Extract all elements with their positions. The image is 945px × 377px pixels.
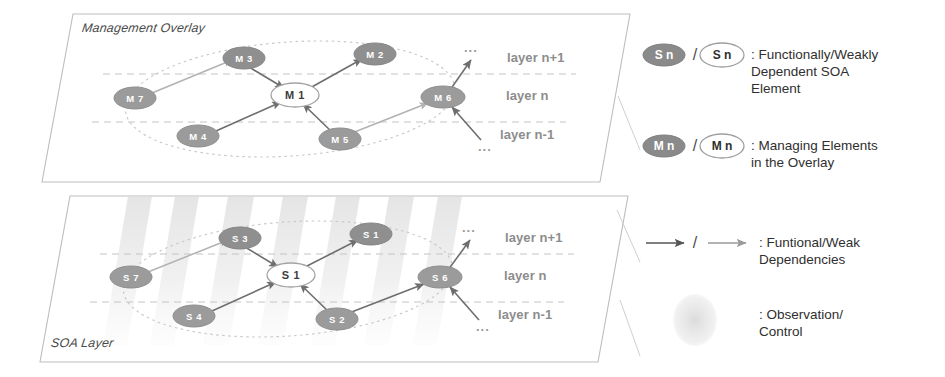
legend-separator-3: / [693,234,697,252]
layer-label-bottom-n: layer n [504,268,547,283]
legend-description-dependencies: : Funtional/Weak Dependencies [759,234,860,268]
layer-label-top-n-minus-1: layer n-1 [500,127,554,142]
node-m7[interactable] [114,87,156,109]
node-m5[interactable] [319,128,361,150]
node-m2[interactable] [354,43,396,65]
node-m6[interactable] [421,86,465,108]
legend-mn-hollow-icon [700,134,744,158]
ellipsis-bottom-upper: ... [462,220,476,235]
ellipsis-bottom-lower: ... [476,319,490,334]
layer-label-bottom-n-minus-1: layer n-1 [498,307,552,322]
node-m3[interactable] [223,47,265,69]
figure-root: Management Overlay SOA Layer layer n+1 l… [0,0,945,377]
ellipsis-top-lower: ... [478,139,492,154]
node-s3[interactable] [219,227,261,249]
panel-title-management: Management Overlay [81,21,206,35]
legend-mn-filled-icon [643,135,685,157]
connector-3 [620,300,640,356]
layer-label-bottom-n-plus-1: layer n+1 [505,230,563,245]
panel-title-soa: SOA Layer [50,336,114,350]
legend-symbols [643,43,746,346]
legend-separator-1: / [693,46,697,64]
node-s7[interactable] [110,266,152,288]
node-m4[interactable] [177,125,219,147]
ellipsis-top-upper: ... [464,40,478,55]
node-s4[interactable] [173,305,215,327]
legend-observation-swatch-icon [673,294,717,346]
node-s2[interactable] [316,308,358,330]
connector-1 [618,96,640,150]
layer-label-top-n-plus-1: layer n+1 [507,50,565,65]
legend-description-managing-element: : Managing Elements in the Overlay [751,137,878,171]
layer-label-top-n: layer n [506,88,549,103]
node-s1[interactable] [267,263,315,287]
node-m1[interactable] [271,83,319,107]
legend-description-soa-element: : Functionally/Weakly Dependent SOA Elem… [751,46,878,97]
legend-separator-2: / [693,137,697,155]
legend-sn-filled-icon [643,44,685,66]
node-s6[interactable] [418,266,462,288]
node-s1-upper[interactable] [350,223,392,245]
legend-sn-hollow-icon [700,43,744,67]
legend-description-observation-control: : Observation/ Control [759,306,843,340]
